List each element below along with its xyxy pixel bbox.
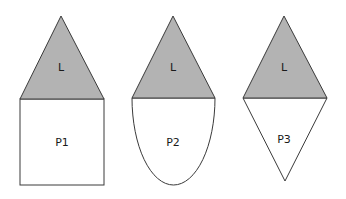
- body-label: P2: [166, 136, 180, 149]
- diagram-canvas: L P1 L P2 L P3: [0, 0, 346, 199]
- roof-label: L: [281, 61, 288, 74]
- roof-label: L: [58, 61, 65, 74]
- shape-1: L P1: [20, 16, 104, 185]
- roof-triangle: [132, 16, 215, 98]
- shape-3: L P3: [243, 16, 327, 181]
- roof-triangle: [20, 16, 104, 99]
- roof-triangle: [243, 16, 327, 98]
- body-label: P3: [277, 133, 291, 146]
- roof-label: L: [170, 61, 177, 74]
- shape-2: L P2: [132, 16, 215, 185]
- body-label: P1: [55, 136, 69, 149]
